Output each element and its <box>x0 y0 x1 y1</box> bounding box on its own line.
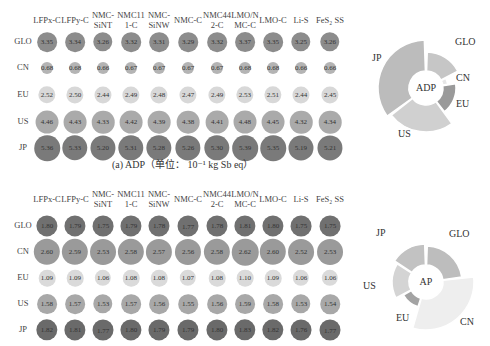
top-bubble: 4.41 <box>206 111 229 134</box>
bottom-bubble: 1.75 <box>320 216 341 237</box>
top-donut-center-label: ADP <box>412 82 440 93</box>
bottom-pie-label-us: US <box>363 280 376 291</box>
bottom-bubble: 1.06 <box>293 270 309 286</box>
top-pie-label-eu: EU <box>456 98 469 109</box>
bottom-bubble: 1.59 <box>235 294 255 314</box>
bottom-row-label: JP <box>8 324 38 334</box>
bottom-bubble: 1.09 <box>67 270 84 287</box>
bottom-bubble: 1.82 <box>36 319 57 340</box>
bottom-bubble: 1.82 <box>262 319 283 340</box>
bottom-bubble: 2.52 <box>288 239 314 265</box>
bottom-bubble: 2.60 <box>260 239 286 265</box>
bottom-bubble: 1.06 <box>95 270 111 286</box>
bottom-bubble: 1.81 <box>64 319 85 340</box>
top-bubble: 4.46 <box>36 111 59 134</box>
top-bubble: 2.47 <box>179 86 196 103</box>
bottom-bubble: 2.58 <box>118 239 144 265</box>
top-bubble: 2.44 <box>94 86 111 103</box>
top-column-header: FeS₂ SS <box>310 16 350 26</box>
bottom-bubble: 2.58 <box>204 239 230 265</box>
bottom-bubble: 1.08 <box>209 270 226 287</box>
bottom-bubble: 1.76 <box>291 320 312 341</box>
top-bubble: 3.37 <box>235 32 255 52</box>
top-bubble: 2.53 <box>236 86 253 103</box>
bottom-bubble: 1.08 <box>123 270 140 287</box>
bottom-bubble: 1.75 <box>291 216 312 237</box>
bottom-bubble: 1.77 <box>93 320 114 341</box>
bottom-bubble: 1.07 <box>180 270 196 286</box>
bottom-row-label: GLO <box>8 220 38 230</box>
top-bubble: 3.32 <box>207 32 227 52</box>
top-slice-glo <box>427 52 458 80</box>
top-bubble: 3.26 <box>320 32 339 51</box>
bottom-bubble: 1.57 <box>121 294 141 314</box>
bottom-pie-label-glo: GLO <box>449 228 470 239</box>
bottom-bubble: 1.09 <box>39 270 56 287</box>
bottom-bubble: 1.55 <box>178 294 198 314</box>
top-bubble: 3.34 <box>65 32 85 52</box>
top-bubble: 3.26 <box>93 32 112 51</box>
top-bubble: 0.66 <box>324 62 336 74</box>
top-bubble: 0.67 <box>211 62 223 74</box>
top-pie-label-jp: JP <box>372 52 381 63</box>
top-row-label: GLO <box>8 36 38 46</box>
top-bubble: 2.50 <box>66 86 83 103</box>
top-bubble: 2.49 <box>208 86 225 103</box>
bottom-bubble: 1.81 <box>234 215 255 236</box>
bottom-bubble: 2.53 <box>90 239 116 265</box>
bottom-bubble: 1.10 <box>237 270 254 287</box>
top-slice-cn <box>441 78 447 85</box>
top-bubble: 4.38 <box>177 111 200 134</box>
bottom-bubble: 1.80 <box>120 319 141 340</box>
top-bubble: 0.68 <box>239 62 251 74</box>
top-bubble: 4.33 <box>92 111 115 134</box>
bottom-bubble: 1.08 <box>151 270 168 287</box>
top-bubble: 4.39 <box>148 111 171 134</box>
bottom-bubble: 2.57 <box>146 239 172 265</box>
top-bubble: 4.43 <box>64 111 87 134</box>
top-bubble: 4.45 <box>262 111 285 134</box>
bottom-bubble: 1.58 <box>263 294 283 314</box>
bottom-bubble: 1.80 <box>36 215 57 236</box>
bottom-bubble: 1.53 <box>291 294 310 313</box>
caption-a: (a) ADP（单位： 10⁻¹ kg Sb eq） <box>112 156 253 171</box>
top-row-label: EU <box>8 89 38 99</box>
top-bubble: 3.35 <box>37 32 57 52</box>
bottom-bubble: 1.83 <box>234 319 255 340</box>
top-bubble: 2.48 <box>150 86 167 103</box>
bottom-bubble: 2.53 <box>317 239 343 265</box>
top-bubble: 4.48 <box>234 111 257 134</box>
top-row-label: US <box>8 116 38 126</box>
bottom-bubble: 2.62 <box>232 239 259 266</box>
bottom-bubble: 1.78 <box>148 215 169 236</box>
bottom-pie-label-cn: CN <box>460 316 474 327</box>
top-bubble: 0.67 <box>125 62 137 74</box>
bottom-bubble: 2.56 <box>175 239 201 265</box>
bottom-bubble: 1.57 <box>65 294 85 314</box>
bottom-pie-label-jp: JP <box>376 227 385 238</box>
top-bubble: 2.44 <box>292 86 309 103</box>
bottom-bubble: 1.80 <box>206 319 227 340</box>
top-bubble: 5.21 <box>317 135 342 160</box>
bottom-bubble: 2.59 <box>62 239 88 265</box>
top-bubble: 5.19 <box>288 135 313 160</box>
top-bubble: 3.32 <box>121 32 141 52</box>
bottom-bubble: 1.79 <box>64 215 85 236</box>
bottom-bubble: 1.53 <box>93 294 112 313</box>
top-bubble: 4.32 <box>290 111 313 134</box>
top-bubble: 0.68 <box>267 62 279 74</box>
bottom-bubble: 1.79 <box>177 319 198 340</box>
bottom-slice-glo <box>427 246 462 280</box>
top-bubble: 2.52 <box>38 86 55 103</box>
bottom-bubble: 1.79 <box>148 319 169 340</box>
top-bubble: 0.67 <box>182 62 194 74</box>
top-bubble: 0.66 <box>295 62 307 74</box>
bottom-bubble: 1.77 <box>320 320 341 341</box>
top-bubble: 0.68 <box>41 62 53 74</box>
bottom-pie-label-eu: EU <box>396 312 409 323</box>
top-bubble: 5.33 <box>62 135 87 160</box>
top-bubble: 0.66 <box>97 62 109 74</box>
top-row-label: CN <box>8 62 38 72</box>
bottom-bubble: 1.58 <box>37 294 57 314</box>
top-bubble: 3.31 <box>149 32 169 52</box>
